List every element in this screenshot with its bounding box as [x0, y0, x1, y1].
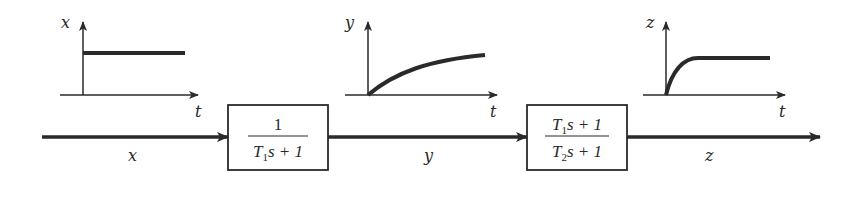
plot-z-y-label: z	[645, 13, 655, 32]
plot-y: y t	[344, 13, 497, 121]
signal-z-label: z	[704, 146, 714, 165]
transfer-block-1: 1 T1s + 1	[228, 105, 328, 170]
signal-x-label: x	[128, 146, 137, 165]
block-2-numerator: T1s + 1	[552, 115, 602, 136]
plot-x-y-label: x	[61, 13, 70, 32]
plot-z-t-label: t	[779, 102, 786, 121]
block-1-numerator: 1	[274, 115, 283, 134]
block-1-denominator: T1s + 1	[253, 142, 303, 163]
plot-y-t-label: t	[490, 102, 497, 121]
plot-x-t-label: t	[195, 102, 202, 121]
plot-x: x t	[60, 13, 202, 121]
plot-y-y-label: y	[344, 13, 355, 32]
plot-z: z t	[643, 13, 786, 121]
transfer-block-2: T1s + 1 T2s + 1	[527, 105, 627, 170]
plot-z-response-curve	[666, 58, 770, 95]
block-2-denominator: T2s + 1	[552, 142, 602, 163]
signal-y-label: y	[423, 146, 434, 165]
block-diagram: x t y t z t x y z 1 T1s + 1 T1s + 1 T2s …	[0, 0, 854, 202]
plot-y-response-curve	[368, 55, 485, 95]
